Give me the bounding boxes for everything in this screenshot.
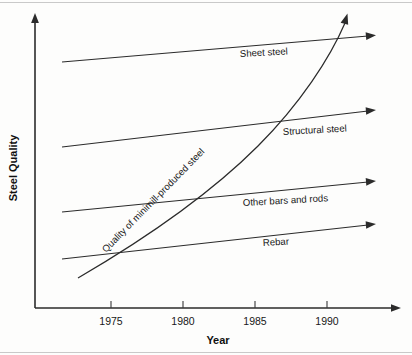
structural-steel-arrowhead-icon (366, 107, 376, 115)
y-axis-title: Steel Quality (7, 134, 19, 202)
x-tick-label-1975: 1975 (99, 315, 123, 327)
y-axis-arrowhead-icon (31, 13, 39, 23)
x-axis-title: Year (206, 334, 230, 346)
y-axis (31, 13, 39, 308)
series-label-sheet-steel: Sheet steel (239, 45, 288, 59)
other-bars-arrowhead-icon (366, 178, 376, 186)
series-structural-steel: Structural steel (62, 107, 376, 147)
x-axis (35, 304, 401, 312)
sheet-steel-line (62, 36, 368, 62)
rebar-arrowhead-icon (366, 221, 376, 229)
chart-canvas: 1975 1980 1985 1990 Year Steel Quality S… (0, 0, 412, 355)
series-label-rebar: Rebar (262, 236, 290, 248)
series-other-bars-and-rods: Other bars and rods (62, 178, 376, 212)
series-label-minimill-quality: Quality of minimill-produced steel (100, 146, 207, 255)
minimill-curve-arrowhead-icon (341, 14, 349, 25)
x-axis-arrowhead-icon (391, 304, 401, 312)
x-tick-label-1990: 1990 (315, 315, 339, 327)
chart-figure: 1975 1980 1985 1990 Year Steel Quality S… (0, 0, 412, 355)
series-label-other-bars-and-rods: Other bars and rods (242, 192, 328, 208)
x-axis-ticks (111, 301, 327, 308)
x-tick-label-1980: 1980 (171, 315, 195, 327)
series-sheet-steel: Sheet steel (62, 32, 376, 62)
x-axis-tick-labels: 1975 1980 1985 1990 (99, 315, 339, 327)
sheet-steel-arrowhead-icon (366, 32, 376, 40)
series-label-structural-steel: Structural steel (282, 122, 347, 137)
x-tick-label-1985: 1985 (243, 315, 267, 327)
series-minimill-quality: Quality of minimill-produced steel (78, 14, 348, 279)
